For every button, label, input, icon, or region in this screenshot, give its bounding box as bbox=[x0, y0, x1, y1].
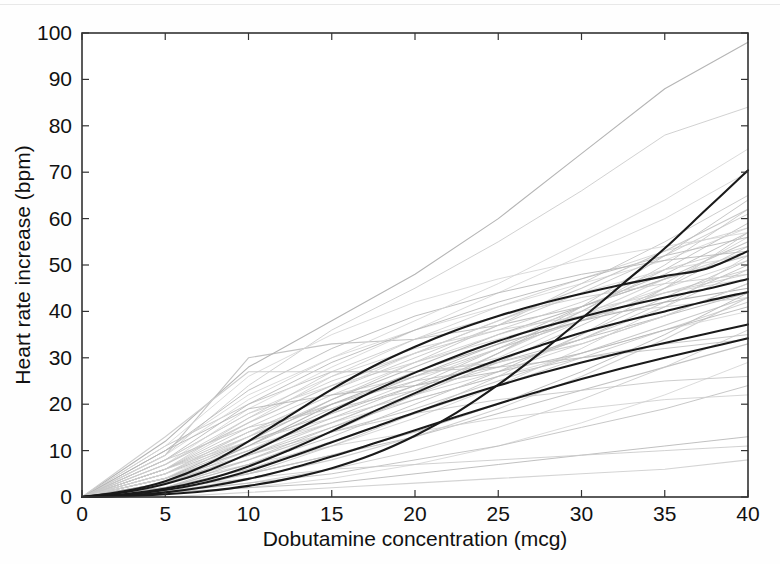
y-tick-label: 20 bbox=[49, 392, 72, 415]
x-tick-label: 10 bbox=[237, 502, 260, 525]
y-tick-label: 50 bbox=[49, 253, 72, 276]
x-tick-label: 5 bbox=[159, 502, 171, 525]
x-tick-label: 25 bbox=[487, 502, 510, 525]
y-tick-label: 90 bbox=[49, 67, 72, 90]
y-tick-label: 70 bbox=[49, 160, 72, 183]
x-axis-title: Dobutamine concentration (mcg) bbox=[263, 527, 568, 550]
y-axis-title: Heart rate increase (bpm) bbox=[11, 145, 34, 384]
x-tick-label: 35 bbox=[653, 502, 676, 525]
figure-root: 0510152025303540 0102030405060708090100 … bbox=[0, 0, 780, 564]
y-tick-label: 30 bbox=[49, 346, 72, 369]
chart-canvas: 0510152025303540 0102030405060708090100 … bbox=[0, 0, 780, 564]
y-tick-label: 10 bbox=[49, 439, 72, 462]
y-tick-label: 80 bbox=[49, 114, 72, 137]
y-tick-labels: 0102030405060708090100 bbox=[37, 21, 72, 508]
y-tick-label: 60 bbox=[49, 207, 72, 230]
x-tick-label: 40 bbox=[736, 502, 759, 525]
x-tick-label: 15 bbox=[320, 502, 343, 525]
x-tick-label: 20 bbox=[403, 502, 426, 525]
x-tick-label: 0 bbox=[76, 502, 88, 525]
y-tick-label: 40 bbox=[49, 299, 72, 322]
x-tick-labels: 0510152025303540 bbox=[76, 502, 760, 525]
x-tick-label: 30 bbox=[570, 502, 593, 525]
y-tick-label: 100 bbox=[37, 21, 72, 44]
y-tick-label: 0 bbox=[60, 485, 72, 508]
